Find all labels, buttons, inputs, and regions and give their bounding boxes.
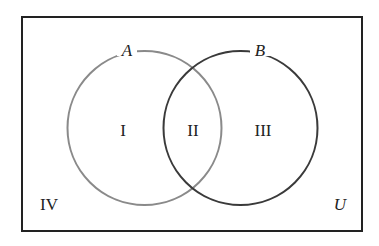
region-iii-label: III bbox=[255, 121, 272, 140]
venn-diagram: A B I II III IV U bbox=[0, 0, 379, 246]
region-iv-label: IV bbox=[40, 195, 59, 214]
region-i-label: I bbox=[120, 121, 126, 140]
set-a-label: A bbox=[121, 41, 133, 60]
universe-label: U bbox=[334, 195, 348, 214]
set-b-label: B bbox=[255, 41, 266, 60]
region-ii-label: II bbox=[187, 121, 199, 140]
